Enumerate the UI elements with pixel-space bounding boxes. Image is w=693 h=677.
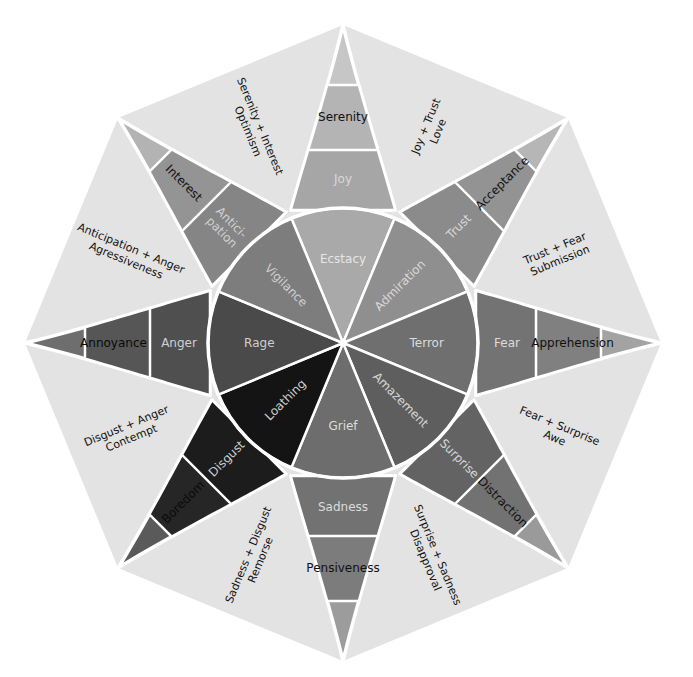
label-terror: Terror: [409, 336, 444, 350]
label-serenity: Serenity: [318, 110, 368, 124]
label-joy: Joy: [333, 172, 352, 186]
label-anger: Anger: [161, 336, 197, 350]
label-annoyance: Annoyance: [80, 336, 147, 350]
label-ecstacy: Ecstacy: [320, 252, 366, 266]
label-apprehension: Apprehension: [531, 336, 614, 350]
label-rage: Rage: [244, 336, 274, 350]
label-pensiveness: Pensiveness: [306, 561, 379, 575]
label-grief: Grief: [328, 419, 358, 433]
label-sadness: Sadness: [318, 500, 368, 514]
label-fear: Fear: [494, 336, 520, 350]
emotion-wheel: EcstacyJoySerenityAdmirationTrustAccepta…: [0, 0, 693, 677]
